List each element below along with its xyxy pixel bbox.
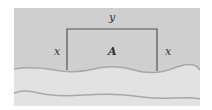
label-right-side: x [165,46,171,57]
diagram-drawing [14,8,200,106]
river [14,64,200,106]
label-top-side: y [109,12,115,23]
diagram-panel [14,8,200,106]
label-area: A [108,46,117,57]
label-left-side: x [54,46,60,57]
